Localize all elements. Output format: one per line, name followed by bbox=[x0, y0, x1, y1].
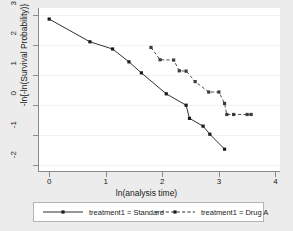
gridline bbox=[39, 165, 280, 166]
gridline bbox=[39, 45, 280, 46]
legend-key-solid bbox=[42, 207, 84, 217]
y-tick-label: -1 bbox=[10, 121, 18, 149]
gridline bbox=[39, 105, 280, 106]
y-axis-line bbox=[38, 8, 39, 171]
y-axis-title: -ln{-ln(Survival Probability)} bbox=[19, 0, 29, 135]
x-tick-label: 0 bbox=[39, 177, 59, 186]
chart-root: 3210-1-2 01234 ln(analysis time) -ln{-ln… bbox=[0, 0, 293, 231]
gridline bbox=[39, 75, 280, 76]
y-tick-label: 1 bbox=[10, 61, 18, 89]
y-tick-label: 2 bbox=[10, 31, 18, 59]
x-tick-label: 1 bbox=[96, 177, 116, 186]
legend: treatment1 = Standardtreatment1 = Drug A bbox=[33, 202, 264, 222]
plot-area bbox=[39, 8, 280, 171]
legend-key-dashed bbox=[154, 207, 196, 217]
y-tick-label: -2 bbox=[10, 151, 18, 179]
legend-item[interactable]: treatment1 = Drug A bbox=[154, 203, 268, 221]
x-tick-label: 3 bbox=[209, 177, 229, 186]
legend-label: treatment1 = Standard bbox=[89, 208, 164, 217]
gridline bbox=[39, 135, 280, 136]
x-axis-line bbox=[38, 171, 280, 172]
y-tick-label: 0 bbox=[10, 91, 18, 119]
gridline bbox=[39, 15, 280, 16]
x-axis-title: ln(analysis time) bbox=[0, 188, 293, 198]
x-tick-label: 4 bbox=[265, 177, 285, 186]
x-tick-label: 2 bbox=[152, 177, 172, 186]
legend-label: treatment1 = Drug A bbox=[201, 208, 268, 217]
legend-item[interactable]: treatment1 = Standard bbox=[42, 203, 164, 221]
y-tick-label: 3 bbox=[10, 1, 18, 29]
